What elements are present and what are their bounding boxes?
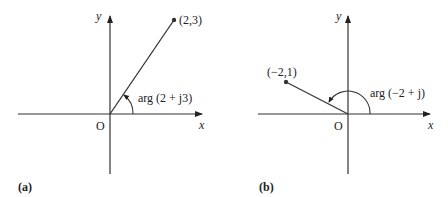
angle-label: arg (2 + j3): [138, 91, 192, 105]
vector-line: [286, 82, 348, 114]
point-marker: [172, 18, 176, 22]
x-axis-label: x: [198, 118, 205, 132]
x-axis-label: x: [427, 118, 434, 132]
angle-label: arg (−2 + j): [370, 86, 425, 100]
panel-caption: (a): [18, 180, 32, 194]
panel-caption: (b): [259, 180, 274, 194]
angle-arc: [329, 91, 370, 114]
y-axis-label: y: [335, 9, 342, 23]
panel-a: y x O (2,3) arg (2 + j3) (a): [18, 9, 205, 194]
y-axis-label: y: [95, 9, 102, 23]
origin-label: O: [96, 119, 105, 133]
argand-diagrams: y x O (2,3) arg (2 + j3) (a) y x O (−2,1…: [0, 0, 448, 197]
panel-b: y x O (−2,1) arg (−2 + j) (b): [258, 9, 434, 194]
angle-arc: [124, 95, 133, 114]
point-label: (−2,1): [267, 65, 297, 79]
point-marker: [284, 80, 288, 84]
point-label: (2,3): [179, 13, 202, 27]
origin-label: O: [334, 119, 343, 133]
